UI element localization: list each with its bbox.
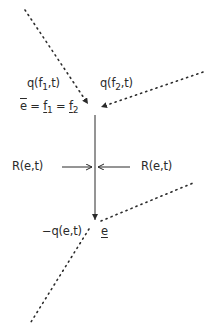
label-q-f1: q(f1,t)	[27, 78, 60, 90]
label-q-f1-prefix: q(f	[27, 76, 42, 90]
label-R-right: R(e,t)	[141, 161, 172, 173]
label-equals-1: =	[27, 99, 43, 113]
label-f1-underlined: f1	[43, 99, 52, 113]
label-f2-sub: 2	[73, 105, 79, 115]
dotted-outgoing-right-line	[101, 183, 193, 221]
label-equals-2: =	[53, 99, 69, 113]
label-q-f1-suffix: ,t)	[48, 76, 60, 90]
label-neg-q: −q(e,t)	[42, 226, 82, 238]
label-equality: e = f1 = f2	[20, 101, 78, 113]
label-q-f2: q(f2,t)	[100, 78, 133, 90]
label-e-underlined: e	[101, 226, 108, 238]
label-R-left: R(e,t)	[12, 161, 43, 173]
label-q-f2-prefix: q(f	[100, 76, 115, 90]
label-e-bar: e	[20, 99, 27, 113]
dotted-outgoing-left-line	[31, 229, 89, 322]
label-q-f2-suffix: ,t)	[121, 76, 133, 90]
label-f2-underlined: f2	[69, 99, 78, 113]
